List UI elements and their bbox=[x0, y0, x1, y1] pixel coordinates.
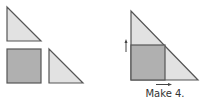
small-triangle-right bbox=[49, 49, 83, 83]
small-triangle-top bbox=[7, 7, 41, 41]
right-arrow-icon bbox=[156, 83, 172, 86]
up-arrow-icon bbox=[125, 39, 128, 52]
inner-square bbox=[131, 45, 165, 80]
caption: Make 4. bbox=[140, 88, 190, 100]
square-piece bbox=[7, 49, 41, 83]
